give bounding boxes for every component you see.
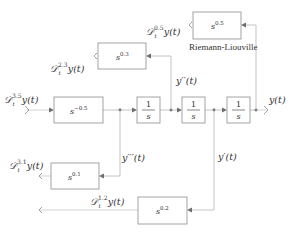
output-port-icon [94,53,97,59]
integrator-block-3[interactable]: 1 s [227,97,250,123]
label-d0.5-y: 𝒟0.5ty(t) [146,24,181,39]
block-s0.3[interactable]: s0.3 [98,43,146,69]
label-d2.3-y: 𝒟2.3ty(t) [50,61,85,76]
integrator-denominator: s [236,112,240,121]
integrator-denominator: s [146,112,150,121]
arrow-icon [241,23,246,28]
arrow-icon [222,108,227,113]
block-diagram: s0.5 Riemann-Liouville s0.3 s−0.5 1 s 1 … [0,0,295,234]
block-exponent: 0.3 [120,51,129,57]
label-y-triple-prime: y′′′(t) [121,152,145,163]
block-s0.2[interactable]: s0.2 [138,197,187,224]
integrator-numerator: 1 [236,100,241,109]
branch-y1-to-s02 [191,110,214,210]
label-d1.2-y: 𝒟1.2ty(t) [90,194,125,209]
arrow-icon [146,54,151,59]
arrow-icon [177,108,182,113]
integrator-block-1[interactable]: 1 s [137,97,160,123]
arrow-icon [132,108,137,113]
block-exponent: −0.5 [74,105,88,111]
block-exponent: 0.5 [215,20,224,26]
arrow-icon [99,174,104,179]
block-exponent: 0.2 [160,205,169,211]
integrator-denominator: s [191,112,195,121]
arrow-icon [187,208,192,213]
branch-y3-to-s01 [103,110,120,176]
caption-riemann-liouville: Riemann-Liouville [189,42,257,52]
block-exponent: 0.1 [72,171,81,177]
block-s0.5[interactable]: s0.5 [193,12,241,39]
label-y-prime: y′(t) [217,151,237,162]
block-s-0.5[interactable]: s−0.5 [54,97,103,123]
integrator-numerator: 1 [191,100,196,109]
output-port-icon [189,22,192,28]
integrator-block-2[interactable]: 1 s [182,97,205,123]
integrator-numerator: 1 [146,100,151,109]
label-y: y(t) [268,94,286,105]
block-s0.1[interactable]: s0.1 [51,163,99,189]
label-y-double-prime: y′′(t) [175,75,197,86]
arrow-icon [49,108,54,113]
label-d3.1-y: 𝒟3.1ty(t) [9,158,44,173]
label-d3.5-y: 𝒟3.5ty(t) [4,92,39,107]
